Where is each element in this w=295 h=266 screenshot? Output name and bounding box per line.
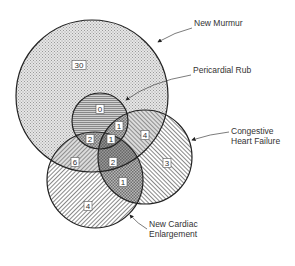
svg-text:1: 1	[121, 178, 126, 187]
region-count-new_murmur-pericardial_rub-chf: 1	[115, 122, 123, 132]
leader-chf	[192, 132, 229, 140]
label-nce-line-2: Enlargement	[149, 229, 198, 239]
svg-text:4: 4	[143, 131, 148, 140]
svg-text:6: 6	[73, 158, 78, 167]
region-count-new_murmur-pericardial_rub-nce: 2	[86, 135, 94, 145]
region-count-new_murmur-chf-nce: 2	[109, 158, 117, 168]
svg-text:1: 1	[117, 122, 122, 131]
label-congestive-heart-failure: Congestive Heart Failure	[231, 126, 280, 146]
region-count-chf: 3	[163, 159, 171, 169]
leader-nce	[130, 215, 147, 229]
region-count-chf-nce: 1	[119, 178, 127, 188]
svg-text:3: 3	[165, 159, 170, 168]
label-chf-line-1: Congestive	[231, 126, 280, 136]
region-count-new_murmur-pericardial_rub-chf-nce: 1	[107, 135, 115, 145]
region-count-new_murmur: 30	[72, 61, 86, 71]
label-new-cardiac-enlargement: New Cardiac Enlargement	[149, 219, 198, 239]
svg-text:2: 2	[111, 158, 116, 167]
label-nce-line-1: New Cardiac	[149, 219, 198, 229]
region-count-nce: 4	[84, 202, 92, 212]
region-count-new_murmur-chf: 4	[141, 131, 149, 141]
leader-new-murmur	[158, 28, 192, 42]
svg-text:0: 0	[98, 105, 103, 114]
label-chf-line-2: Heart Failure	[231, 136, 280, 146]
svg-text:4: 4	[86, 202, 91, 211]
svg-text:30: 30	[75, 61, 84, 70]
svg-text:1: 1	[109, 135, 114, 144]
region-count-new_murmur-pericardial_rub: 0	[96, 105, 104, 115]
svg-text:2: 2	[88, 135, 93, 144]
label-new-murmur: New Murmur	[194, 18, 243, 28]
label-pericardial-rub: Pericardial Rub	[193, 65, 251, 75]
region-count-new_murmur-nce: 6	[71, 158, 79, 168]
